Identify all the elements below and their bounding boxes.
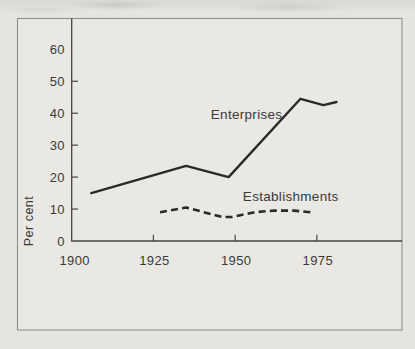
- y-tick-label: 50: [50, 74, 65, 89]
- x-tick-label: 1975: [303, 253, 334, 268]
- x-tick-label: 1950: [221, 253, 252, 268]
- y-tick-label: 20: [50, 170, 65, 185]
- figure-border-box: [18, 19, 403, 331]
- y-tick-label: 30: [50, 138, 65, 153]
- series-label-establishments: Establishments: [243, 189, 339, 204]
- x-tick-label: 1900: [59, 253, 90, 268]
- y-tick-label: 0: [57, 234, 65, 249]
- chart-figure: 01020304050601900192519501975Per centEnt…: [0, 0, 415, 349]
- y-tick-label: 60: [50, 42, 65, 57]
- x-tick-label: 1925: [139, 253, 170, 268]
- series-label-enterprises: Enterprises: [211, 107, 283, 122]
- y-axis-title: Per cent: [22, 196, 36, 247]
- line-chart-canvas: 01020304050601900192519501975Per centEnt…: [0, 0, 415, 349]
- y-tick-label: 10: [50, 202, 65, 217]
- y-tick-label: 40: [50, 106, 65, 121]
